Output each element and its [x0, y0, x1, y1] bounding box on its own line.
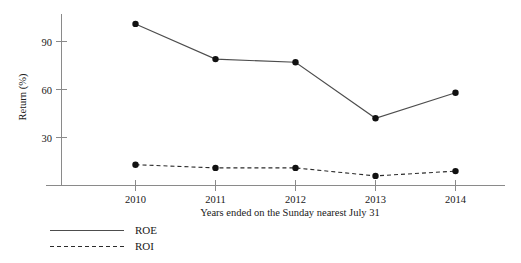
chart-legend: ROE ROI: [50, 224, 157, 252]
x-tick-label-2010: 2010: [125, 194, 146, 205]
y-tick-label-30: 30: [42, 133, 53, 144]
data-point-roi-2014: [452, 168, 458, 174]
data-point-roe-2011: [212, 56, 218, 62]
x-tick-label-2013: 2013: [365, 194, 386, 205]
data-point-roi-2011: [212, 165, 218, 171]
series-layer: [132, 21, 458, 179]
line-chart-canvas: 90 60 30 Return (%) 2010 2011 2012 2013 …: [0, 0, 521, 263]
legend-label-roi: ROI: [135, 240, 154, 252]
x-axis-title: Years ended on the Sunday nearest July 3…: [200, 207, 379, 218]
data-point-roe-2010: [132, 21, 138, 27]
x-tick-label-2011: 2011: [205, 194, 226, 205]
data-point-roe-2014: [452, 90, 458, 96]
x-tick-label-2012: 2012: [285, 194, 306, 205]
legend-label-roe: ROE: [135, 224, 157, 236]
x-tick-label-2014: 2014: [445, 194, 467, 205]
data-point-roi-2012: [292, 165, 298, 171]
y-tick-label-60: 60: [42, 85, 53, 96]
y-axis-title: Return (%): [17, 73, 29, 120]
y-tick-label-90: 90: [42, 37, 53, 48]
data-point-roe-2013: [372, 115, 378, 121]
chart-figure: 90 60 30 Return (%) 2010 2011 2012 2013 …: [0, 0, 521, 263]
data-point-roi-2013: [372, 173, 378, 179]
data-point-roe-2012: [292, 59, 298, 65]
data-point-roi-2010: [132, 162, 138, 168]
series-line-roe: [136, 24, 456, 118]
